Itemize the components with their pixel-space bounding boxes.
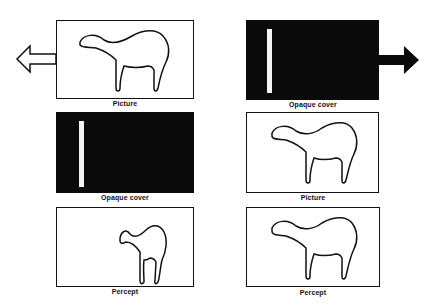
camel-percept-icon	[0, 0, 440, 308]
right-percept-label: Percept	[243, 289, 383, 296]
